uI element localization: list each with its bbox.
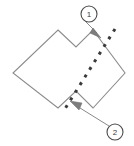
polygon-outline xyxy=(13,30,125,108)
callout-2-leader xyxy=(80,108,109,126)
technical-diagram: 1 2 xyxy=(0,0,134,146)
callout-1-label: 1 xyxy=(87,10,92,19)
figure-canvas: 1 2 xyxy=(0,0,134,146)
callout-2-label: 2 xyxy=(113,128,118,137)
